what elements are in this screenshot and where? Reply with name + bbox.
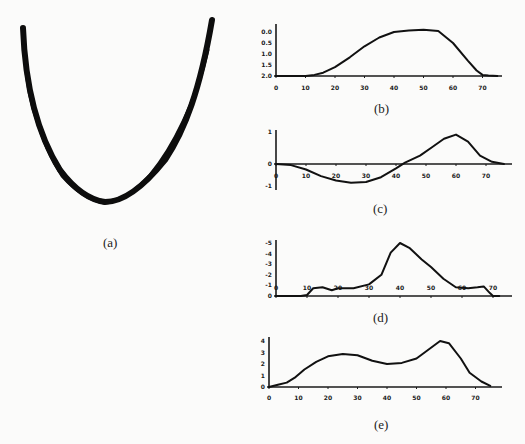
x-tick-label: 30 xyxy=(362,172,370,179)
x-tick-label: 20 xyxy=(324,394,332,401)
panel-b: 0.00.51.01.52.0 010203040506070 xyxy=(261,24,502,91)
y-tick-label: 2 xyxy=(261,360,265,367)
x-tick-label: 40 xyxy=(383,394,391,401)
x-tick-label: 10 xyxy=(294,394,302,401)
x-tick-label: 70 xyxy=(489,284,497,291)
x-tick-label: 10 xyxy=(301,84,309,91)
x-tick-label: 50 xyxy=(422,172,430,179)
x-tick-label: 40 xyxy=(396,284,404,291)
x-tick-label: 50 xyxy=(427,284,435,291)
x-tick-label: 70 xyxy=(478,84,486,91)
x-tick-label: 40 xyxy=(390,84,398,91)
x-tick-label: 60 xyxy=(442,394,450,401)
y-tick-label: -4 xyxy=(265,250,272,257)
x-tick-label: 50 xyxy=(412,394,420,401)
y-tick-label: 3 xyxy=(261,349,265,356)
figure-canvas: (a) 0.00.51.01.52.0 010203040506070 (b) … xyxy=(0,0,525,444)
b-curve xyxy=(276,30,497,76)
y-tick-label: 1.0 xyxy=(261,50,272,57)
y-tick-label: -1 xyxy=(265,281,272,288)
x-tick-label: 0 xyxy=(274,284,278,291)
x-tick-label: 20 xyxy=(332,172,340,179)
y-tick-label: 0 xyxy=(268,292,272,299)
caption-d: (d) xyxy=(373,310,388,325)
x-tick-label: 70 xyxy=(471,394,479,401)
caption-a: (a) xyxy=(103,235,117,250)
caption-e: (e) xyxy=(374,417,388,432)
y-tick-label: -2 xyxy=(265,271,272,278)
panel-d: -5-4-3-2-10 010203040506070 xyxy=(265,239,512,299)
x-tick-label: 50 xyxy=(419,84,427,91)
panel-e: 01234 010203040506070 xyxy=(261,337,502,401)
x-tick-label: 60 xyxy=(452,172,460,179)
panel-a-traces xyxy=(23,20,212,203)
y-tick-label: 4 xyxy=(261,337,265,344)
x-tick-label: 30 xyxy=(353,394,361,401)
x-tick-label: 10 xyxy=(303,284,311,291)
c-curve xyxy=(276,135,504,183)
x-tick-label: 0 xyxy=(267,394,271,401)
y-tick-label: -3 xyxy=(265,260,272,267)
caption-c: (c) xyxy=(373,201,387,216)
panel-c: 10-1 010203040506070 xyxy=(265,128,512,190)
y-tick-label: 0 xyxy=(268,160,272,167)
y-tick-label: 1.5 xyxy=(261,61,272,68)
y-tick-label: 0.0 xyxy=(261,28,272,35)
y-tick-label: 1 xyxy=(261,372,265,379)
y-tick-label: 0.5 xyxy=(261,39,272,46)
x-tick-label: 0 xyxy=(274,84,278,91)
y-tick-label: 0 xyxy=(261,383,265,390)
y-tick-label: 1 xyxy=(268,128,272,135)
e-curve xyxy=(269,341,490,387)
x-tick-label: 70 xyxy=(482,172,490,179)
x-tick-label: 0 xyxy=(274,172,278,179)
x-tick-label: 10 xyxy=(302,172,310,179)
y-tick-label: 2.0 xyxy=(261,72,272,79)
x-tick-label: 30 xyxy=(360,84,368,91)
x-tick-label: 40 xyxy=(392,172,400,179)
y-tick-label: -1 xyxy=(265,182,272,189)
y-tick-label: -5 xyxy=(265,239,272,246)
caption-b: (b) xyxy=(374,101,389,116)
x-tick-label: 20 xyxy=(331,84,339,91)
x-tick-label: 60 xyxy=(449,84,457,91)
